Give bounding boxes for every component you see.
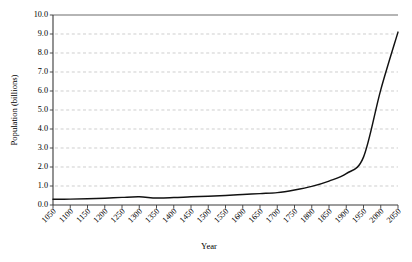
x-tick-label: 1100 (57, 207, 75, 225)
x-tick-label: 1850 (316, 207, 334, 225)
y-tick-label: 1.0 (38, 181, 48, 190)
x-tick-label: 1500 (195, 207, 213, 225)
x-tick-label: 2000 (368, 207, 386, 225)
y-tick-label: 2.0 (38, 162, 48, 171)
y-tick-label: 4.0 (38, 124, 48, 133)
x-tick-label: 1350 (143, 207, 161, 225)
y-tick-label: 6.0 (38, 86, 48, 95)
y-tick-label: 8.0 (38, 48, 48, 57)
population-curve (53, 32, 398, 199)
x-tick-label: 1750 (281, 207, 299, 225)
x-tick-label: 1200 (92, 207, 110, 225)
gridlines (55, 34, 398, 186)
x-tick-label: 1300 (126, 207, 144, 225)
y-tick-label: 5.0 (38, 105, 48, 114)
y-tick-label: 7.0 (38, 67, 48, 76)
x-tick-label: 1400 (161, 207, 179, 225)
x-tick-label: 1250 (109, 207, 127, 225)
x-tick-label: 1600 (230, 207, 248, 225)
population-growth-chart: 0.01.02.03.04.05.06.07.08.09.010.0 10501… (0, 0, 412, 262)
x-axis-title: Year (201, 241, 217, 251)
data-series (53, 32, 398, 199)
x-tick-label: 1050 (40, 207, 58, 225)
y-tick-label: 0.0 (38, 200, 48, 209)
x-tick-label: 1700 (264, 207, 282, 225)
x-tick-label: 1800 (299, 207, 317, 225)
chart-canvas: 0.01.02.03.04.05.06.07.08.09.010.0 10501… (0, 0, 412, 262)
x-tick-label: 1900 (333, 207, 351, 225)
x-tick-label: 1950 (350, 207, 368, 225)
x-axis-tick-labels: 1050110011501200125013001350140014501500… (40, 207, 403, 225)
x-axis-ticks (53, 205, 398, 209)
y-tick-label: 10.0 (34, 10, 48, 19)
y-axis-tick-labels: 0.01.02.03.04.05.06.07.08.09.010.0 (34, 10, 48, 209)
x-tick-label: 1650 (247, 207, 265, 225)
y-axis-title: Population (billions) (9, 74, 19, 145)
x-tick-label: 1450 (178, 207, 196, 225)
x-tick-label: 1150 (75, 207, 93, 225)
x-tick-label: 2050 (385, 207, 403, 225)
y-tick-label: 3.0 (38, 143, 48, 152)
x-tick-label: 1550 (212, 207, 230, 225)
y-tick-label: 9.0 (38, 29, 48, 38)
